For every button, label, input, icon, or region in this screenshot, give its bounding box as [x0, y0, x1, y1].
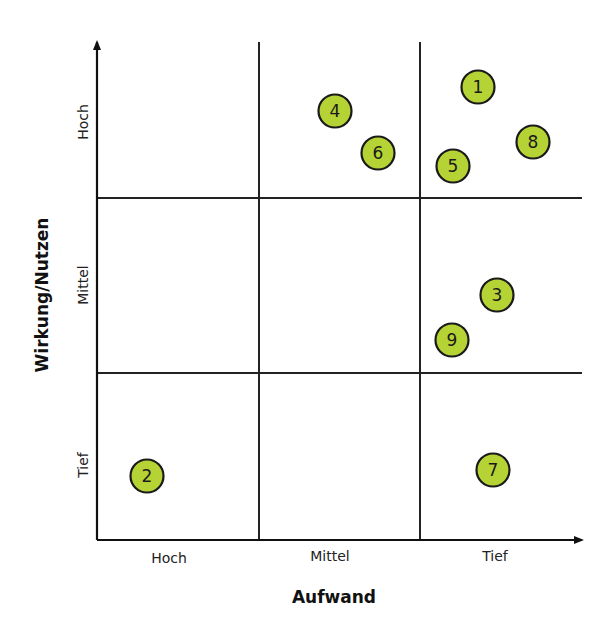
bubble-1: 1	[462, 71, 495, 104]
bubble-7: 7	[477, 454, 510, 487]
bubbles-layer: 123456789	[131, 71, 550, 493]
bubble-label: 3	[492, 285, 503, 305]
bubble-label: 1	[473, 77, 484, 97]
bubble-9: 9	[436, 324, 469, 357]
bubble-label: 8	[528, 132, 539, 152]
x-tick-tief: Tief	[481, 548, 509, 564]
bubble-8: 8	[517, 126, 550, 159]
bubble-label: 6	[373, 143, 384, 163]
y-tick-hoch: Hoch	[75, 104, 91, 140]
bubble-5: 5	[437, 150, 470, 183]
bubble-label: 4	[330, 101, 341, 121]
bubble-label: 9	[447, 330, 458, 350]
bubble-label: 7	[488, 460, 499, 480]
bubble-label: 5	[448, 156, 459, 176]
x-tick-hoch: Hoch	[151, 550, 187, 566]
y-tick-tief: Tief	[75, 451, 91, 479]
y-axis-title: Wirkung/Nutzen	[32, 218, 52, 373]
y-tick-mittel: Mittel	[75, 265, 91, 304]
priority-matrix: Hoch Mittel Tief Hoch Mittel Tief Aufwan…	[0, 0, 616, 632]
bubble-6: 6	[362, 137, 395, 170]
x-tick-mittel: Mittel	[310, 548, 349, 564]
bubble-3: 3	[481, 279, 514, 312]
bubble-label: 2	[142, 466, 153, 486]
bubble-2: 2	[131, 460, 164, 493]
bubble-4: 4	[319, 95, 352, 128]
x-axis-title: Aufwand	[292, 587, 376, 607]
